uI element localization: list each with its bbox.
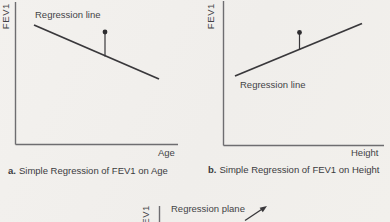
figure-canvas: FEV1 Regression line Age a.Simple Regres… (0, 0, 390, 222)
panel-b-caption-text: Simple Regression of FEV1 on Height (219, 164, 379, 175)
panel-a-caption: a.Simple Regression of FEV1 on Age (8, 166, 168, 176)
panel-a-caption-letter: a. (8, 165, 16, 176)
panel-b-regression-line-label: Regression line (240, 80, 305, 90)
panel-b-caption: b.Simple Regression of FEV1 on Height (208, 165, 379, 175)
panel-a-y-axis-label: FEV1 (1, 3, 11, 29)
panel-b-caption-letter: b. (208, 164, 216, 175)
panel-b-x-axis-label: Height (351, 148, 378, 158)
panel-a-x-axis-label: Age (158, 148, 175, 158)
panel-a-data-point (103, 30, 108, 35)
panel-c-arrow-shaft (245, 209, 263, 221)
panel-a-regression-line-label: Regression line (35, 10, 100, 20)
panel-c-y-axis-label: FEV1 (141, 205, 151, 222)
panel-a-regression-line (34, 25, 159, 79)
figure-linework (0, 0, 390, 222)
panel-c-arrow-head (260, 206, 267, 212)
panel-c-regression-plane-label: Regression plane (171, 204, 245, 214)
panel-a-caption-text: Simple Regression of FEV1 on Age (19, 165, 168, 176)
panel-b-y-axis-label: FEV1 (206, 3, 216, 29)
panel-b-data-point (297, 30, 302, 35)
